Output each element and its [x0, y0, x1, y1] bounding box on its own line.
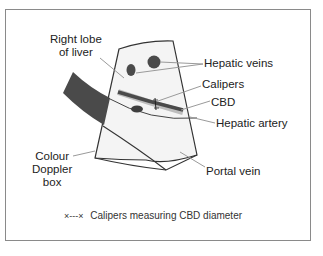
- portal-vein-ellipse: [131, 106, 143, 113]
- label-colour-doppler-line1: Colour: [32, 150, 72, 163]
- dark-strip: [63, 72, 110, 125]
- legend: ×---× Calipers measuring CBD diameter: [64, 210, 242, 221]
- hepatic-vein-small: [127, 64, 136, 76]
- leader-hepatic-artery: [190, 117, 215, 123]
- label-right-lobe-line1: Right lobe: [50, 33, 102, 46]
- label-colour-doppler-box: Colour Doppler box: [32, 150, 72, 189]
- label-right-lobe-line2: of liver: [50, 46, 102, 59]
- label-portal-vein: Portal vein: [206, 165, 260, 178]
- label-cbd: CBD: [211, 96, 235, 109]
- caliper-symbol-icon: ×---×: [64, 211, 84, 221]
- label-colour-doppler-line3: box: [32, 176, 72, 189]
- legend-text: Calipers measuring CBD diameter: [90, 210, 242, 221]
- label-colour-doppler-line2: Doppler: [32, 163, 72, 176]
- label-right-lobe: Right lobe of liver: [50, 33, 102, 59]
- hepatic-vein-large: [148, 56, 161, 69]
- label-hepatic-artery: Hepatic artery: [216, 117, 288, 130]
- leader-colour-doppler: [73, 151, 95, 156]
- label-hepatic-veins: Hepatic veins: [204, 57, 273, 70]
- label-calipers: Calipers: [202, 78, 244, 91]
